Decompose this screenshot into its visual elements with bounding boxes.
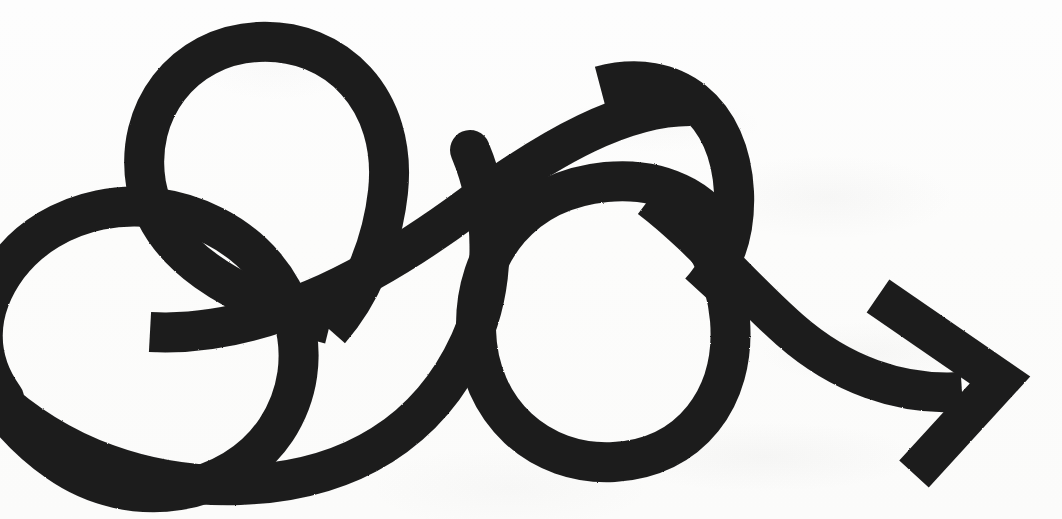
artwork-canvas (0, 0, 1062, 519)
stroke-arrow-tail (650, 198, 962, 392)
ink-layer (0, 0, 1062, 519)
looping-arrow-illustration (0, 0, 1062, 519)
